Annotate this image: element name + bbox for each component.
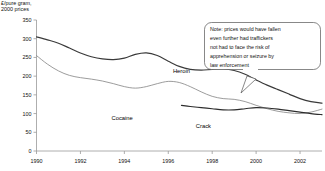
callout-line: even further had traffickers — [210, 35, 273, 41]
callout-line: Note: prices would have fallen — [210, 26, 281, 32]
y-axis — [34, 20, 37, 151]
x-tick-label: 1998 — [206, 158, 218, 164]
y-tick-label: 200 — [23, 73, 32, 79]
y-tick-label: 150 — [23, 92, 32, 98]
x-axis — [37, 151, 323, 154]
x-tick-label: 1992 — [74, 158, 86, 164]
y-tick-label: 50 — [26, 129, 32, 135]
chart-container: £/pure gram, 2000 prices 050100150200250… — [0, 0, 325, 171]
y-tick-label: 300 — [23, 36, 32, 42]
x-tick-label: 1996 — [162, 158, 174, 164]
y-tick-label: 250 — [23, 54, 32, 60]
series-label-crack: Crack — [196, 123, 211, 129]
y-tick-label: 0 — [29, 148, 32, 154]
x-tick-label: 1994 — [118, 158, 130, 164]
series-labels: HeroinCocaineCrack — [112, 68, 212, 129]
callout-tail — [241, 76, 256, 93]
y-tick-label: 350 — [23, 17, 32, 23]
callout-line: law enforcement — [210, 62, 249, 68]
series-label-heroin: Heroin — [173, 68, 190, 74]
callout-line: apprehension or seizure by — [210, 53, 274, 59]
line-chart-svg: 050100150200250300350 199019921994199619… — [0, 0, 325, 171]
x-tick-label: 2002 — [294, 158, 306, 164]
callout-line: not had to face the risk of — [210, 44, 270, 50]
x-tick-labels: 1990199219941996199820002002 — [31, 158, 307, 164]
series-label-cocaine: Cocaine — [112, 115, 133, 121]
x-tick-label: 2000 — [250, 158, 262, 164]
y-tick-labels: 050100150200250300350 — [23, 17, 32, 154]
y-tick-label: 100 — [23, 111, 32, 117]
x-tick-label: 1990 — [31, 158, 43, 164]
